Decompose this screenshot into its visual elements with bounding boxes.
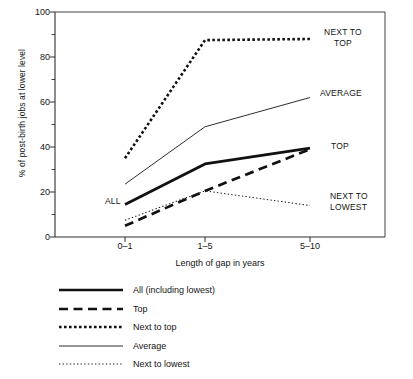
legend-item-next-to-top: Next to top (58, 318, 298, 337)
legend-label-all: All (including lowest) (133, 285, 215, 295)
annotation-next-to-lowest-line1: NEXT TO (330, 191, 368, 201)
line-chart-figure: % of post-birth jobs at lower level 0 20… (0, 0, 413, 379)
series-line-next-to-lowest (125, 191, 310, 220)
legend-label-next-to-lowest: Next to lowest (133, 359, 190, 369)
legend-item-top: Top (58, 300, 298, 319)
annotation-top: TOP (331, 141, 349, 152)
legend-item-all: All (including lowest) (58, 281, 298, 300)
dashed-thick-line-icon (58, 304, 124, 314)
annotation-next-to-top-line2: TOP (334, 38, 352, 48)
series-line-average (125, 98, 310, 185)
annotation-average: AVERAGE (320, 88, 362, 99)
legend-label-top: Top (133, 304, 148, 314)
legend-label-next-to-top: Next to top (133, 322, 177, 332)
annotation-next-to-lowest-line2: LOWEST (330, 202, 367, 212)
chart-legend: All (including lowest) Top Next to top A… (58, 281, 298, 374)
dotted-thick-line-icon (58, 322, 124, 332)
legend-label-average: Average (133, 341, 166, 351)
annotation-next-to-top-line1: NEXT TO (324, 27, 362, 37)
annotation-next-to-top: NEXT TOTOP (312, 27, 374, 48)
x-ticks (125, 237, 310, 242)
legend-item-next-to-lowest: Next to lowest (58, 355, 298, 374)
annotation-all: ALL (105, 196, 121, 207)
solid-thick-line-icon (58, 285, 124, 295)
legend-item-average: Average (58, 337, 298, 356)
annotation-next-to-lowest: NEXT TOLOWEST (330, 191, 400, 212)
solid-thin-line-icon (58, 341, 124, 351)
series-line-next-to-top (125, 39, 310, 158)
dotted-thin-line-icon (58, 359, 124, 369)
series-line-all (125, 148, 310, 204)
